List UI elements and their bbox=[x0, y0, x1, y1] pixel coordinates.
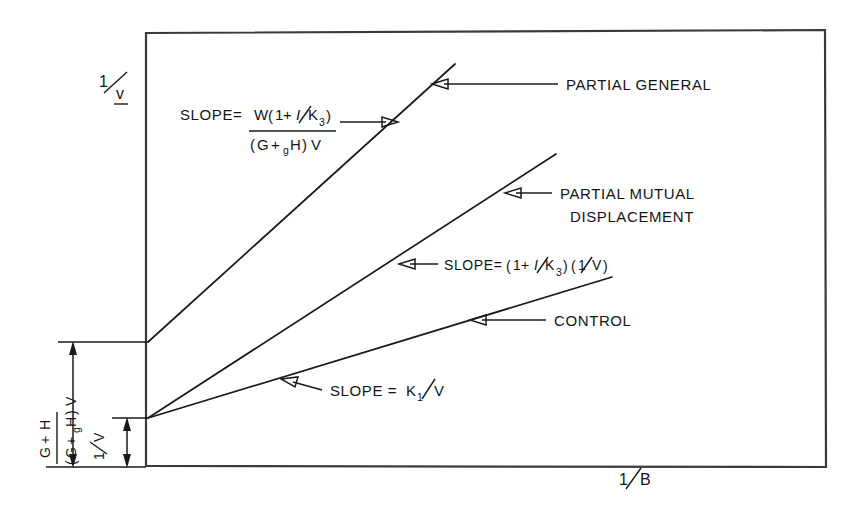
callout-control: CONTROL bbox=[470, 312, 632, 329]
x-axis-label: 1 B bbox=[619, 468, 651, 489]
slope-formula-1-prefix: SLOPE= bbox=[180, 106, 242, 123]
slope-formula-2-prefix: SLOPE= bbox=[444, 257, 502, 273]
lower-intercept-label: 1 V bbox=[90, 432, 107, 460]
slope-formula-control: SLOPE = K 1 V bbox=[281, 377, 445, 403]
y-axis-label-denominator: v bbox=[116, 85, 125, 102]
upper-intercept-label: G + H ( G + g H ) V bbox=[37, 396, 82, 465]
upper-den-H: H bbox=[63, 416, 79, 427]
lower-intercept-bracket: 1 V bbox=[90, 417, 148, 468]
upper-intercept-bracket: G + H ( G + g H ) V bbox=[37, 341, 148, 468]
upper-den-G: G bbox=[63, 447, 79, 459]
slope-1-num-lead: W bbox=[254, 106, 269, 123]
slope-1-den-close: ) bbox=[302, 136, 308, 153]
slope-1-num-open: ( bbox=[268, 107, 274, 124]
upper-den-close: ) bbox=[63, 410, 79, 415]
slope-2-plus: + bbox=[521, 257, 530, 273]
slope-2-K-sub: 3 bbox=[556, 266, 562, 278]
figure-canvas: 1 v 1 B PARTIAL GENERAL SLOPE= W ( 1 + I… bbox=[0, 0, 862, 507]
callout-partial-general-label: PARTIAL GENERAL bbox=[566, 76, 711, 93]
slope-1-num-K: K bbox=[308, 106, 319, 123]
callout-pmd-line1: PARTIAL MUTUAL bbox=[560, 185, 695, 202]
slope-1-den-g-sub: g bbox=[283, 144, 289, 156]
plot-frame bbox=[146, 30, 826, 467]
slope-formula-partial-general: SLOPE= W ( 1 + I K 3 ) ( G + g H ) V bbox=[180, 106, 398, 156]
y-axis-label-numerator: 1 bbox=[99, 73, 109, 90]
callout-partial-general: PARTIAL GENERAL bbox=[432, 76, 711, 93]
callout-partial-mutual-displacement: PARTIAL MUTUAL DISPLACEMENT bbox=[505, 185, 695, 225]
slope-2-close1: ) bbox=[563, 258, 568, 274]
x-axis-label-denominator: B bbox=[640, 471, 651, 488]
slope-3-K: K bbox=[406, 382, 417, 399]
x-axis-label-numerator: 1 bbox=[619, 471, 629, 488]
double-reciprocal-plot-figure: 1 v 1 B PARTIAL GENERAL SLOPE= W ( 1 + I… bbox=[0, 0, 862, 507]
slope-1-den-H: H bbox=[290, 136, 301, 153]
upper-num-H: H bbox=[37, 419, 53, 430]
slope-formula-3-prefix: SLOPE = bbox=[330, 382, 397, 399]
upper-den-open: ( bbox=[63, 460, 79, 465]
upper-num-plus: + bbox=[37, 435, 53, 444]
slope-2-open2: ( bbox=[571, 258, 576, 274]
upper-den-V: V bbox=[63, 396, 79, 406]
slope-3-V: V bbox=[434, 382, 445, 399]
slope-2-close2: ) bbox=[603, 258, 608, 274]
slope-1-num-plus: + bbox=[283, 106, 292, 123]
slope-1-den-open: ( bbox=[250, 136, 256, 153]
callout-control-label: CONTROL bbox=[554, 312, 632, 329]
slope-2-K: K bbox=[545, 257, 555, 273]
y-axis-label: 1 v bbox=[99, 72, 128, 104]
slope-1-den-V: V bbox=[311, 136, 322, 153]
slope-1-num-K-sub: 3 bbox=[319, 116, 325, 128]
callout-pmd-line2: DISPLACEMENT bbox=[570, 208, 694, 225]
slope-formula-partial-mutual-displacement: SLOPE= ( 1 + I K 3 ) ( 1 V ) bbox=[399, 257, 608, 278]
slope-2-open1: ( bbox=[506, 258, 511, 274]
slope-1-den-plus: + bbox=[271, 136, 280, 153]
lower-den: V bbox=[91, 432, 107, 442]
slope-2-V: V bbox=[592, 257, 602, 273]
slope-1-den-G: G bbox=[257, 136, 269, 153]
slope-1-num-close: ) bbox=[326, 107, 332, 124]
upper-num-G: G bbox=[37, 447, 53, 459]
upper-den-plus: + bbox=[63, 436, 79, 445]
